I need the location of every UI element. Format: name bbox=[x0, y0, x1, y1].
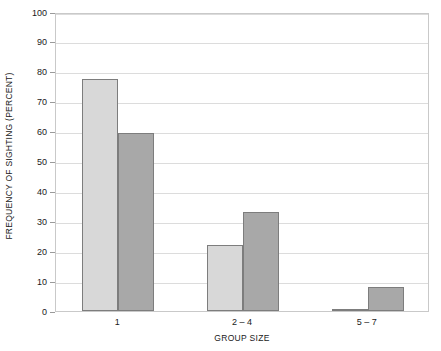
bar bbox=[207, 245, 243, 311]
y-axis-tick-label: 40 bbox=[11, 188, 47, 197]
y-axis-tick-label: 80 bbox=[11, 68, 47, 77]
y-axis-tick-label: 90 bbox=[11, 38, 47, 47]
y-axis-tick-label: 30 bbox=[11, 218, 47, 227]
y-axis-tick-label: 60 bbox=[11, 128, 47, 137]
bar bbox=[332, 309, 368, 311]
y-axis-tick-mark bbox=[50, 132, 55, 133]
y-axis-tick-mark bbox=[50, 282, 55, 283]
y-axis-tick-mark bbox=[50, 162, 55, 163]
y-axis-tick-label: 100 bbox=[11, 9, 47, 18]
bar-group bbox=[207, 12, 279, 311]
y-axis-tick-label: 70 bbox=[11, 98, 47, 107]
y-axis-tick-mark bbox=[50, 42, 55, 43]
bar-group bbox=[82, 12, 154, 311]
x-axis-tick-label: 2 – 4 bbox=[202, 318, 282, 327]
x-axis-tick-label: 5 – 7 bbox=[327, 318, 407, 327]
y-axis-tick-mark bbox=[50, 222, 55, 223]
y-axis-tick-label: 10 bbox=[11, 278, 47, 287]
y-axis-tick-mark bbox=[50, 252, 55, 253]
x-axis-tick-label: 1 bbox=[77, 318, 157, 327]
bar bbox=[368, 287, 404, 311]
bar-group bbox=[332, 12, 404, 311]
bar-chart-figure: FREQUENCY OF SIGHTING (PERCENT) GROUP SI… bbox=[0, 0, 441, 351]
y-axis-tick-label: 50 bbox=[11, 158, 47, 167]
bar bbox=[243, 212, 279, 311]
bar bbox=[82, 79, 118, 311]
plot-area bbox=[55, 13, 429, 312]
y-axis-tick-mark bbox=[50, 192, 55, 193]
y-axis-tick-mark bbox=[50, 13, 55, 14]
bar bbox=[118, 133, 154, 311]
y-axis-tick-mark bbox=[50, 312, 55, 313]
y-axis-tick-label: 20 bbox=[11, 248, 47, 257]
x-axis-title: GROUP SIZE bbox=[55, 333, 429, 343]
y-axis-tick-label: 0 bbox=[11, 308, 47, 317]
y-axis-tick-mark bbox=[50, 72, 55, 73]
y-axis-tick-mark bbox=[50, 102, 55, 103]
